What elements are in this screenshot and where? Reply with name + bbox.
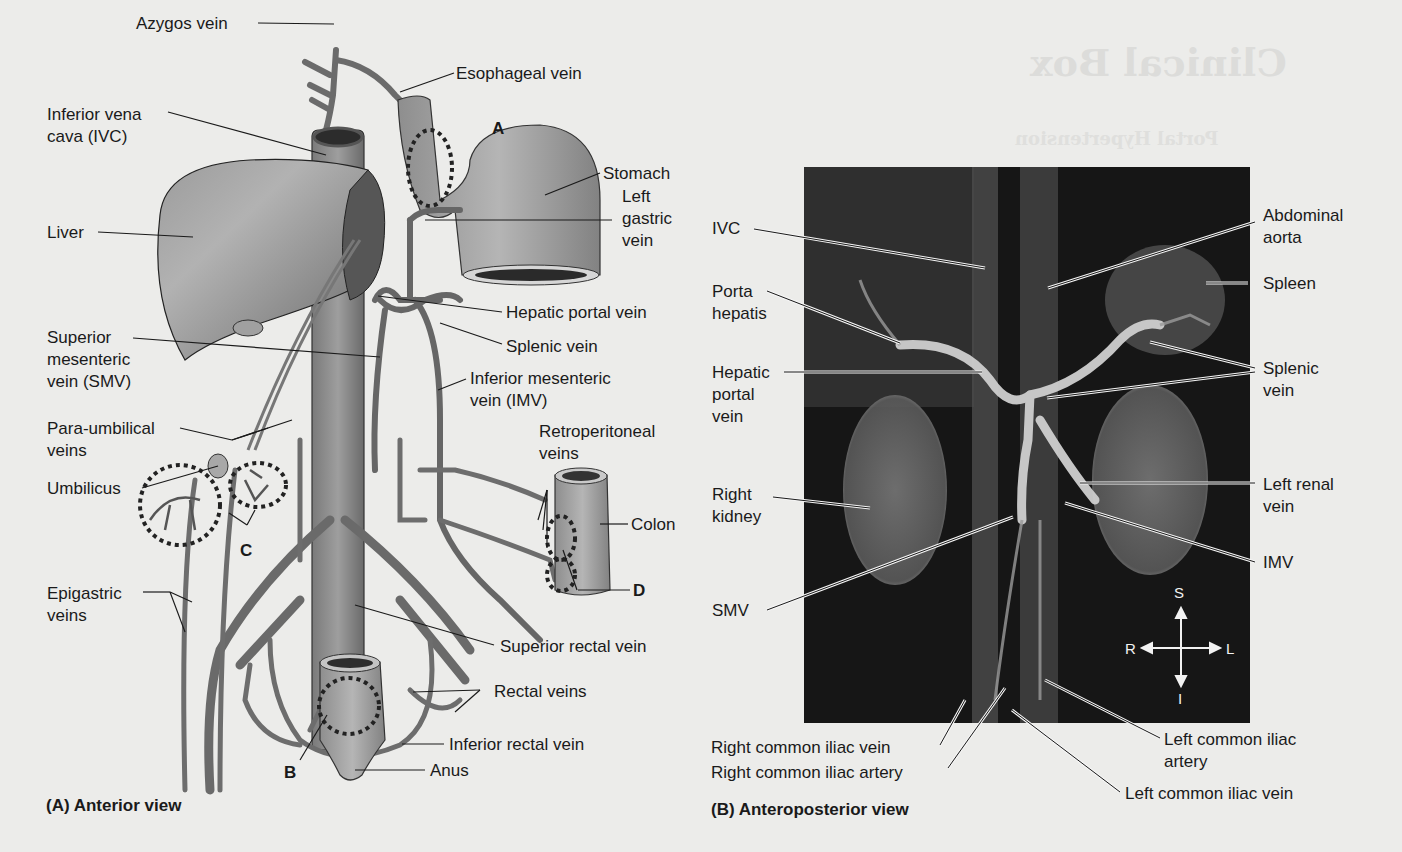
illustration-canvas: [0, 0, 1402, 852]
label-b-right-common-iliac-artery: Right common iliac artery: [711, 762, 903, 783]
mri-left-kidney: [1092, 385, 1208, 575]
label-b-abdominal-aorta-2: aorta: [1263, 227, 1302, 248]
label-b-hpv-2: portal: [712, 384, 755, 405]
marker-c: C: [240, 540, 252, 561]
marker-c-circle-right: [230, 463, 286, 507]
label-smv-2: mesenteric: [47, 349, 130, 370]
label-epigastric-2: veins: [47, 605, 87, 626]
label-epigastric-1: Epigastric: [47, 583, 122, 604]
label-b-left-common-iliac-artery-1: Left common iliac: [1164, 729, 1296, 750]
caption-anteroposterior-view: (B) Anteroposterior view: [711, 800, 909, 820]
marker-d: D: [633, 580, 645, 601]
label-b-left-common-iliac-artery-2: artery: [1164, 751, 1207, 772]
label-ivc-line1: Inferior vena: [47, 104, 142, 125]
compass-i: I: [1178, 690, 1182, 707]
mri-right-kidney: [843, 395, 947, 585]
label-retroperitoneal-2: veins: [539, 443, 579, 464]
label-b-splenic-2: vein: [1263, 380, 1294, 401]
label-umbilicus: Umbilicus: [47, 478, 121, 499]
label-azygos-vein: Azygos vein: [136, 13, 228, 34]
label-b-porta-2: hepatis: [712, 303, 767, 324]
label-ivc-line2: cava (IVC): [47, 126, 127, 147]
label-colon: Colon: [631, 514, 675, 535]
compass-s: S: [1174, 584, 1184, 601]
label-imv-1: Inferior mesenteric: [470, 368, 611, 389]
label-b-porta-1: Porta: [712, 281, 753, 302]
compass-l: L: [1226, 640, 1234, 657]
label-b-hpv-1: Hepatic: [712, 362, 770, 383]
label-left-gastric-3: vein: [622, 230, 653, 251]
label-b-abdominal-aorta-1: Abdominal: [1263, 205, 1343, 226]
label-para-umbilical-1: Para-umbilical: [47, 418, 155, 439]
marker-a: A: [492, 118, 504, 139]
mri-ivc: [972, 167, 998, 723]
label-b-right-kidney-2: kidney: [712, 506, 761, 527]
label-retroperitoneal-1: Retroperitoneal: [539, 421, 655, 442]
label-b-hpv-3: vein: [712, 406, 743, 427]
colon-shape: [555, 470, 610, 595]
rectum-shape: [320, 657, 385, 780]
label-stomach: Stomach: [603, 163, 670, 184]
label-b-imv: IMV: [1263, 552, 1293, 573]
anterior-view-illustration: [98, 23, 630, 790]
label-splenic-vein: Splenic vein: [506, 336, 598, 357]
label-rectal-veins: Rectal veins: [494, 681, 587, 702]
label-smv-3: vein (SMV): [47, 371, 131, 392]
label-superior-rectal-vein: Superior rectal vein: [500, 636, 646, 657]
label-b-spleen: Spleen: [1263, 273, 1316, 294]
label-para-umbilical-2: veins: [47, 440, 87, 461]
label-b-left-renal-1: Left renal: [1263, 474, 1334, 495]
label-left-gastric-1: Left: [622, 186, 650, 207]
compass-r: R: [1125, 640, 1136, 657]
label-b-ivc: IVC: [712, 218, 740, 239]
marker-b: B: [284, 762, 296, 783]
label-smv-1: Superior: [47, 327, 111, 348]
label-left-gastric-2: gastric: [622, 208, 672, 229]
label-imv-2: vein (IMV): [470, 390, 547, 411]
label-b-left-common-iliac-vein: Left common iliac vein: [1125, 783, 1293, 804]
label-b-splenic-1: Splenic: [1263, 358, 1319, 379]
label-b-left-renal-2: vein: [1263, 496, 1294, 517]
label-b-right-common-iliac-vein: Right common iliac vein: [711, 737, 891, 758]
caption-anterior-view: (A) Anterior view: [46, 796, 181, 816]
label-b-right-kidney-1: Right: [712, 484, 752, 505]
label-inferior-rectal-vein: Inferior rectal vein: [449, 734, 584, 755]
label-anus: Anus: [430, 760, 469, 781]
label-b-smv: SMV: [712, 600, 749, 621]
label-esophageal-vein: Esophageal vein: [456, 63, 582, 84]
figure-page: Clinical Box Portal Hypertension: [0, 0, 1402, 852]
label-hepatic-portal-vein: Hepatic portal vein: [506, 302, 647, 323]
label-liver: Liver: [47, 222, 84, 243]
